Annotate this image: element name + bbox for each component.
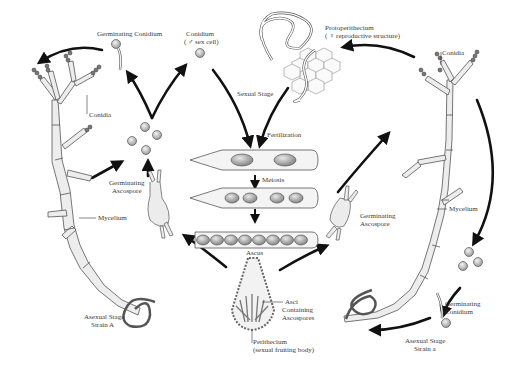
label-asexual-stage-A-2: Strain A xyxy=(91,321,114,329)
label-asexual-stage-a-2: Strain a xyxy=(414,345,436,353)
label-asexual-stage-a-1: Asexual Stage xyxy=(405,337,445,345)
label-conidium-sub: ( ♂ sex cell) xyxy=(184,38,219,46)
label-germinating-conidium-right-1: Germinating xyxy=(445,300,480,308)
germinating-conidium-top xyxy=(112,40,121,71)
germinating-ascospore-right xyxy=(326,186,358,240)
label-meiosis: Meiosis xyxy=(262,176,284,184)
label-asexual-stage-A-1: Asexual Stage xyxy=(84,313,124,321)
perithecium xyxy=(232,258,283,343)
label-conidia-left: Conidia xyxy=(89,111,111,119)
arrow-perithecium-to-ascospore-right xyxy=(280,246,326,270)
arrow-conidium-to-fertilization xyxy=(213,70,250,145)
arrow-ascospore-to-strain-a xyxy=(338,134,388,192)
hypha-coil-left xyxy=(123,299,155,327)
arrow-germconidium-to-strain-a xyxy=(372,318,430,330)
ascus-meiosis xyxy=(190,188,318,208)
conidium-cell xyxy=(196,49,205,58)
arrow-spores-to-conidium xyxy=(152,66,185,118)
label-germinating-conidium-right-2: Conidium xyxy=(445,308,473,316)
label-germinating-ascospore-left-1: Germinating xyxy=(109,179,144,187)
ascus-fertilization xyxy=(190,150,318,170)
ascospore-cluster-left xyxy=(128,123,162,155)
conidia-cluster-right xyxy=(459,248,483,271)
label-perithecium-1: Perithecium xyxy=(253,338,287,346)
label-asci-3: Ascospores xyxy=(282,314,314,322)
life-cycle-diagram: Germinating Conidium Conidium ( ♂ sex ce… xyxy=(0,0,521,370)
germinating-ascospore-left xyxy=(148,170,173,238)
label-asci-1: Asci xyxy=(285,298,298,306)
mycelium-strain-a xyxy=(344,60,473,322)
arrow-strainA-to-proto xyxy=(344,45,414,57)
ascus-eight-spores xyxy=(195,232,318,248)
label-conidium: Conidium xyxy=(186,30,214,38)
label-germinating-conidium-left: Germinating Conidium xyxy=(97,30,162,38)
label-fertilization: Fertilization xyxy=(267,131,301,139)
label-mycelium-left: Mycelium xyxy=(98,214,127,222)
label-conidia-right: Conidia xyxy=(442,49,464,57)
label-perithecium-2: (sexual fruiting body) xyxy=(253,346,314,354)
arrow-spores-to-germconidium xyxy=(128,73,152,118)
label-protoperithecium: Protoperithecium xyxy=(325,24,374,32)
arrow-strain-a-to-conidia xyxy=(474,100,493,243)
label-asci-2: Containing xyxy=(282,306,313,314)
label-germinating-ascospore-right-2: Ascospore xyxy=(360,220,390,228)
label-germinating-ascospore-left-2: Ascospore xyxy=(112,187,142,195)
arrow-mycelium-to-spores xyxy=(92,162,121,178)
label-ascus: Ascus xyxy=(246,249,263,257)
label-sexual-stage: Sexual Stage xyxy=(237,90,273,98)
label-protoperithecium-sub: ( ♀ reproductive structure) xyxy=(325,32,400,40)
label-mycelium-right: Mycelium xyxy=(449,205,478,213)
label-germinating-ascospore-right-1: Germinating xyxy=(360,212,395,220)
